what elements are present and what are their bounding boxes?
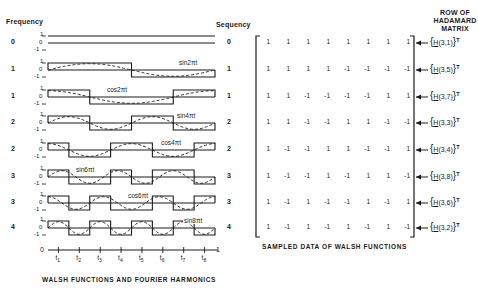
level-plus-one: 1 bbox=[40, 216, 43, 222]
matrix-cell: 1 bbox=[392, 92, 410, 99]
matrix-cell: -1 bbox=[272, 145, 290, 152]
matrix-cell: 1 bbox=[392, 38, 410, 45]
matrix-cell: -1 bbox=[372, 145, 390, 152]
level-zero: 0 bbox=[39, 66, 42, 72]
matrix-cell: 1 bbox=[292, 65, 310, 72]
harmonic-label: cos6πt bbox=[127, 192, 149, 199]
time-tick-label: t2 bbox=[76, 254, 81, 263]
matrix-cell: 1 bbox=[332, 118, 350, 125]
level-zero: 0 bbox=[39, 173, 42, 179]
matrix-cell: -1 bbox=[312, 198, 330, 205]
matrix-cell: -1 bbox=[292, 118, 310, 125]
time-tick-label: t6 bbox=[160, 254, 165, 263]
matrix-cell: -1 bbox=[292, 92, 310, 99]
matrix-cell: 1 bbox=[352, 118, 370, 125]
sequency-label: 3 bbox=[222, 172, 236, 179]
matrix-cell: -1 bbox=[392, 223, 410, 230]
matrix-cell: -1 bbox=[352, 145, 370, 152]
matrix-cell: 1 bbox=[252, 92, 270, 99]
matrix-cell: 1 bbox=[372, 92, 390, 99]
level-minus-one: -1 bbox=[34, 231, 39, 237]
right-caption: SAMPLED DATA OF WALSH FUNCTIONS bbox=[262, 243, 407, 250]
hadamard-row-label: {H(3,5)}T bbox=[430, 63, 460, 74]
matrix-cell: -1 bbox=[372, 65, 390, 72]
matrix-cell: -1 bbox=[372, 118, 390, 125]
matrix-cell: -1 bbox=[352, 65, 370, 72]
matrix-cell: 1 bbox=[332, 145, 350, 152]
matrix-cell: -1 bbox=[392, 65, 410, 72]
matrix-cell: 1 bbox=[252, 145, 270, 152]
level-plus-one: 1 bbox=[40, 111, 43, 117]
matrix-cell: -1 bbox=[372, 198, 390, 205]
level-plus-one: 1 bbox=[40, 165, 43, 171]
matrix-cell: 1 bbox=[252, 172, 270, 179]
level-plus-one: 1 bbox=[40, 31, 43, 37]
time-tick-label: t8 bbox=[202, 254, 207, 263]
matrix-cell: 1 bbox=[312, 145, 330, 152]
level-minus-one: -1 bbox=[34, 126, 39, 132]
matrix-cell: -1 bbox=[312, 118, 330, 125]
level-zero: 0 bbox=[39, 224, 42, 230]
time-tick-label: t3 bbox=[97, 254, 102, 263]
frequency-label: 1 bbox=[6, 65, 20, 72]
matrix-cell: -1 bbox=[312, 92, 330, 99]
hadamard-row-label: {H(3,1)}T bbox=[430, 36, 460, 47]
frequency-label: 3 bbox=[6, 172, 20, 179]
axis-start-label: 0 bbox=[40, 246, 44, 253]
hadamard-row-label: {H(3,7)}T bbox=[430, 90, 460, 101]
matrix-cell: 1 bbox=[392, 198, 410, 205]
matrix-cell: 1 bbox=[252, 38, 270, 45]
matrix-cell: 1 bbox=[372, 172, 390, 179]
matrix-cell: -1 bbox=[352, 92, 370, 99]
matrix-cell: 1 bbox=[372, 223, 390, 230]
harmonic-label: cos2πt bbox=[106, 86, 128, 93]
matrix-cell: -1 bbox=[332, 65, 350, 72]
hadamard-row-label: {H(3,6)}T bbox=[430, 196, 460, 207]
level-zero: 0 bbox=[39, 146, 42, 152]
time-tick-label: t1 bbox=[55, 254, 60, 263]
sequency-label: 0 bbox=[222, 38, 236, 45]
harmonic-label: cos4πt bbox=[160, 139, 182, 146]
matrix-cell: 1 bbox=[352, 198, 370, 205]
level-plus-one: 1 bbox=[40, 58, 43, 64]
matrix-cell: -1 bbox=[392, 172, 410, 179]
level-minus-one: -1 bbox=[34, 73, 39, 79]
matrix-cell: -1 bbox=[332, 198, 350, 205]
matrix-cell: 1 bbox=[312, 65, 330, 72]
frequency-label: 3 bbox=[6, 198, 20, 205]
matrix-cell: -1 bbox=[312, 223, 330, 230]
frequency-label: 0 bbox=[6, 38, 20, 45]
matrix-cell: -1 bbox=[292, 145, 310, 152]
hadamard-row-label: {H(3,8)}T bbox=[430, 170, 460, 181]
matrix-cell: 1 bbox=[252, 118, 270, 125]
level-minus-one: -1 bbox=[34, 100, 39, 106]
level-plus-one: 1 bbox=[40, 191, 43, 197]
matrix-cell: -1 bbox=[352, 223, 370, 230]
sequency-label: 1 bbox=[222, 92, 236, 99]
matrix-cell: 1 bbox=[332, 223, 350, 230]
frequency-label: 2 bbox=[6, 118, 20, 125]
matrix-cell: 1 bbox=[252, 65, 270, 72]
frequency-label: 4 bbox=[6, 223, 20, 230]
level-zero: 0 bbox=[39, 39, 42, 45]
matrix-cell: -1 bbox=[272, 172, 290, 179]
sequency-label: 3 bbox=[222, 198, 236, 205]
matrix-cell: -1 bbox=[272, 223, 290, 230]
matrix-cell: 1 bbox=[312, 38, 330, 45]
matrix-cell: 1 bbox=[312, 172, 330, 179]
matrix-cell: 1 bbox=[272, 92, 290, 99]
frequency-label: 2 bbox=[6, 145, 20, 152]
level-minus-one: -1 bbox=[34, 206, 39, 212]
hadamard-row-label: {H(3,2)}T bbox=[430, 221, 460, 232]
harmonic-label: sin8πt bbox=[183, 217, 203, 224]
matrix-cell: 1 bbox=[352, 172, 370, 179]
sequency-label: 2 bbox=[222, 145, 236, 152]
level-zero: 0 bbox=[39, 93, 42, 99]
level-zero: 0 bbox=[39, 199, 42, 205]
sequency-label: 1 bbox=[222, 65, 236, 72]
matrix-cell: 1 bbox=[292, 38, 310, 45]
hadamard-row-label: {H(3,4)}T bbox=[430, 143, 460, 154]
matrix-cell: -1 bbox=[292, 172, 310, 179]
matrix-cell: -1 bbox=[332, 92, 350, 99]
matrix-cell: 1 bbox=[272, 38, 290, 45]
